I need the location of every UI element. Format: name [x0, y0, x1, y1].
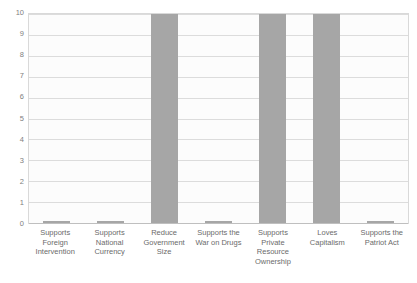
x-axis: Supports Foreign InterventionSupports Na…: [28, 228, 409, 280]
x-axis-tick-label: Supports Foreign Intervention: [28, 228, 82, 257]
y-axis-tick-label: 0: [0, 220, 24, 228]
x-axis-tick-label: Supports the War on Drugs: [191, 228, 245, 247]
bar-slot: [191, 14, 245, 223]
bar[interactable]: [205, 221, 232, 223]
bar[interactable]: [367, 221, 394, 223]
bar[interactable]: [43, 221, 70, 223]
x-axis-tick-label: Supports Private Resource Ownership: [246, 228, 300, 266]
bar-slot: [29, 14, 83, 223]
chart-title: [0, 0, 417, 2]
bar-slot: [83, 14, 137, 223]
y-axis: 109876543210: [0, 13, 24, 224]
bar-chart: 109876543210 Supports Foreign Interventi…: [0, 0, 417, 283]
x-axis-tick-label: Supports National Currency: [82, 228, 136, 257]
y-axis-tick-label: 6: [0, 93, 24, 101]
y-axis-tick-label: 3: [0, 157, 24, 165]
bar-slot: [354, 14, 408, 223]
bar[interactable]: [259, 14, 286, 223]
x-axis-tick-label: Supports the Patriot Act: [355, 228, 409, 247]
bar-slot: [137, 14, 191, 223]
bar-slot: [300, 14, 354, 223]
y-axis-tick-label: 4: [0, 136, 24, 144]
bar[interactable]: [97, 221, 124, 223]
bars-layer: [29, 14, 408, 223]
gridline: [29, 223, 408, 224]
bar[interactable]: [313, 14, 340, 223]
y-axis-tick-label: 7: [0, 72, 24, 80]
y-axis-tick-label: 2: [0, 178, 24, 186]
y-axis-tick-label: 9: [0, 30, 24, 38]
y-axis-tick-label: 8: [0, 51, 24, 59]
y-axis-tick-label: 10: [0, 9, 24, 17]
y-axis-tick-label: 5: [0, 115, 24, 123]
x-axis-tick-label: Loves Capitalism: [300, 228, 354, 247]
x-axis-tick-label: Reduce Government Size: [137, 228, 191, 257]
plot-area: [28, 13, 409, 224]
bar-slot: [246, 14, 300, 223]
y-axis-tick-label: 1: [0, 199, 24, 207]
bar[interactable]: [151, 14, 178, 223]
